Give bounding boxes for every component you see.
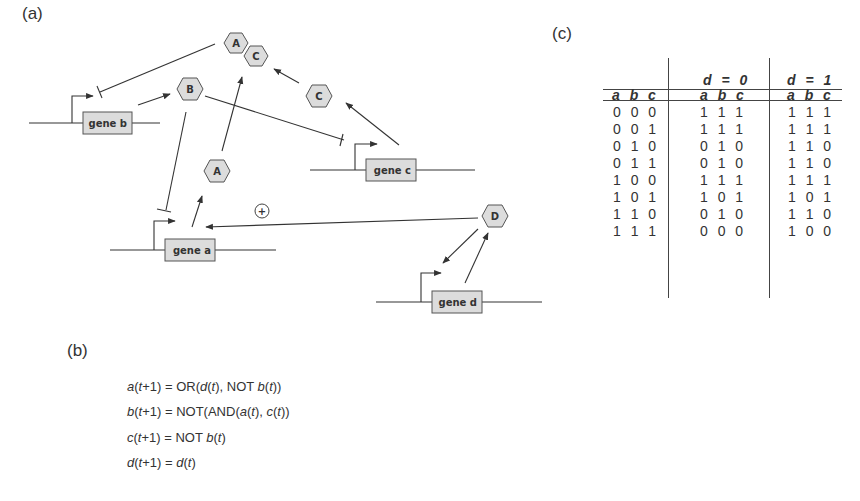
table-cell: 1 0 0 (613, 172, 659, 188)
table-cell: 1 1 0 (788, 206, 834, 222)
header-abc-d1: a b c (787, 87, 834, 103)
table-cell: 0 0 0 (613, 104, 659, 120)
header-d1: d = 1 (787, 72, 834, 88)
header-abc-d0: a b c (700, 87, 747, 103)
table-cell: 1 1 1 (788, 104, 834, 120)
header-abc-current: a b c (612, 87, 659, 103)
table-cell: 1 1 0 (613, 206, 659, 222)
table-cell: 0 0 0 (700, 223, 746, 239)
table-cell: 1 0 1 (788, 189, 834, 205)
table-cell: 0 1 0 (613, 138, 659, 154)
table-cell: 0 1 0 (700, 155, 746, 171)
table-divider-2 (769, 58, 770, 298)
table-cell: 0 1 0 (700, 206, 746, 222)
truth-table: d = 0 d = 1 a b c a b c a b c 0 0 0 1 1 … (0, 0, 860, 501)
table-cell: 1 0 1 (613, 189, 659, 205)
table-cell: 1 1 0 (788, 138, 834, 154)
table-cell: 1 1 1 (788, 172, 834, 188)
table-cell: 0 1 0 (700, 138, 746, 154)
table-cell: 1 0 0 (788, 223, 834, 239)
table-cell: 1 1 0 (788, 155, 834, 171)
table-cell: 1 1 1 (700, 172, 746, 188)
table-cell: 1 1 1 (700, 104, 746, 120)
table-divider-1 (668, 58, 669, 298)
table-cell: 1 1 1 (700, 121, 746, 137)
table-cell: 1 0 1 (700, 189, 746, 205)
table-cell: 1 1 1 (613, 223, 659, 239)
table-cell: 0 1 1 (613, 155, 659, 171)
table-cell: 1 1 1 (788, 121, 834, 137)
header-d0: d = 0 (703, 72, 750, 88)
table-cell: 0 0 1 (613, 121, 659, 137)
